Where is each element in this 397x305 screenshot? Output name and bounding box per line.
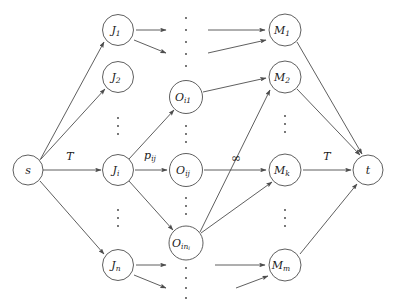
vdots-operations-upper — [185, 125, 187, 143]
edge-Ji-Oini — [129, 181, 173, 230]
edge-M1-t — [297, 42, 362, 154]
vdots-operations-lower — [185, 197, 187, 215]
edge-op-M1-b — [208, 40, 266, 53]
node-operation-Oij[interactable]: Oij — [170, 154, 203, 187]
flow-network-diagram: s t J1 J2 Ji Jn Oi1 O — [0, 0, 397, 305]
edge-Oi1-M2 — [203, 78, 266, 92]
vdots-machines-lower — [284, 209, 286, 227]
edge-Mm-t — [300, 184, 357, 254]
node-job-Ji[interactable]: Ji — [103, 155, 134, 186]
node-operation-Oi1[interactable]: Oi1 — [170, 81, 203, 114]
vdots-jobs-lower — [117, 209, 119, 227]
node-source-label: s — [25, 164, 31, 177]
node-machine-M1[interactable]: M1 — [269, 14, 301, 46]
edge-Jn-op-b — [134, 275, 166, 288]
node-machine-M2[interactable]: M2 — [269, 61, 301, 93]
edge-label-processing-time-pij: pij — [144, 149, 156, 163]
edges-machines-to-sink — [297, 42, 362, 254]
edge-label-capacity-T-source: T — [66, 150, 75, 163]
node-operation-Oini[interactable]: Oini — [169, 226, 203, 260]
node-job-J1[interactable]: J1 — [103, 15, 134, 46]
edge-s-Jn — [40, 181, 104, 254]
vdots-operations-bottom — [185, 267, 187, 299]
node-machine-Mm[interactable]: Mm — [269, 249, 301, 281]
vertical-dots-group — [117, 17, 286, 299]
edges-source-to-jobs — [40, 42, 105, 254]
node-sink-t[interactable]: t — [353, 155, 383, 185]
vdots-machines-upper — [284, 115, 286, 133]
node-job-Jn[interactable]: Jn — [103, 250, 134, 281]
node-job-J2[interactable]: J2 — [103, 62, 134, 93]
edge-label-capacity-infinity: ∞ — [231, 151, 241, 165]
diagram-canvas: s t J1 J2 Ji Jn Oi1 O — [0, 0, 397, 305]
node-machine-Mk[interactable]: Mk — [269, 154, 301, 186]
vdots-jobs-upper — [117, 117, 119, 135]
edge-Ji-Oi1 — [129, 110, 174, 159]
edge-label-capacity-T-sink: T — [323, 150, 332, 163]
vdots-operations-top — [185, 17, 187, 67]
edge-J1-op-b — [134, 40, 166, 53]
node-source-s[interactable]: s — [13, 155, 43, 185]
node-sink-label: t — [366, 164, 371, 177]
edge-M2-t — [297, 89, 360, 155]
edge-op-Mm-b — [236, 276, 268, 288]
